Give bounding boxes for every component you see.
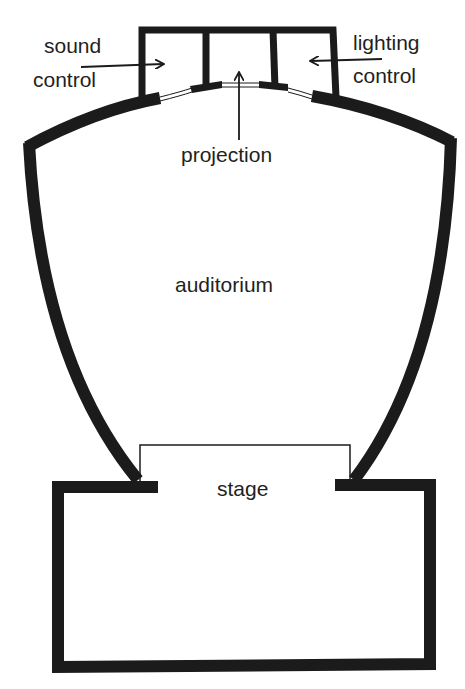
- auditorium-wall-top-left: [27, 98, 160, 147]
- arrow-lighting-control: [311, 59, 382, 61]
- label-lighting: lighting: [353, 31, 420, 55]
- label-sound: sound: [44, 34, 101, 58]
- theatre-floor-plan: [0, 0, 465, 689]
- label-lighting-control: control: [353, 64, 416, 88]
- label-projection: projection: [181, 143, 272, 167]
- auditorium-wall-right: [354, 138, 451, 480]
- arrow-sound-control: [81, 64, 163, 67]
- auditorium-wall-top-right: [312, 96, 452, 142]
- window-lighting-control-inner: [288, 92, 312, 99]
- label-sound-control: control: [33, 68, 96, 92]
- booth-windows: [160, 83, 312, 101]
- stagehouse-wall-left: [58, 485, 430, 667]
- window-sound-control-inner: [160, 92, 192, 101]
- window-sound-control: [160, 88, 192, 97]
- label-stage: stage: [217, 477, 268, 501]
- auditorium-wall-left: [29, 143, 138, 480]
- booth-divider-right: [273, 30, 275, 88]
- window-lighting-control: [288, 88, 312, 95]
- label-auditorium: auditorium: [175, 273, 273, 297]
- stagehouse-walls: [58, 485, 430, 667]
